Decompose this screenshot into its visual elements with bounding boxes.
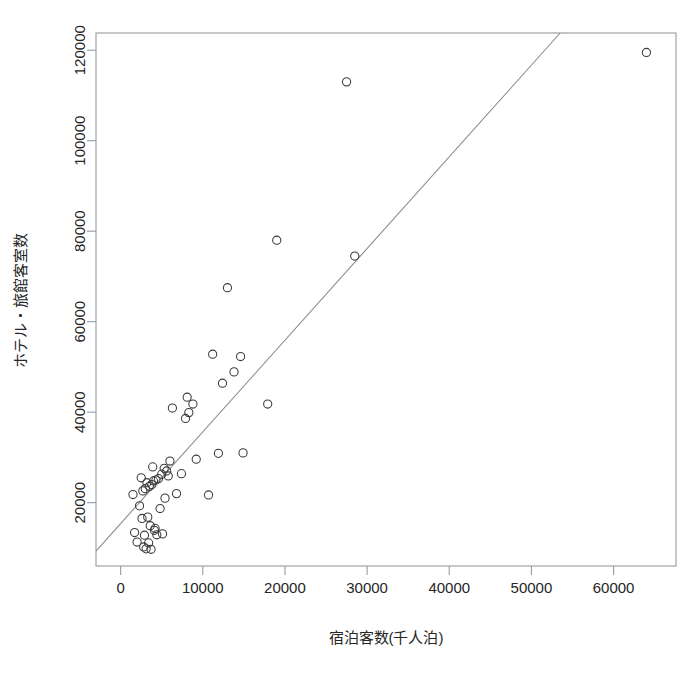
x-tick-label: 30000 bbox=[346, 579, 388, 596]
x-tick-label: 10000 bbox=[182, 579, 224, 596]
y-tick-label: 80000 bbox=[72, 210, 89, 252]
x-tick-label: 40000 bbox=[428, 579, 470, 596]
y-tick-label: 60000 bbox=[72, 301, 89, 343]
x-tick-label: 0 bbox=[116, 579, 124, 596]
y-tick-label: 40000 bbox=[72, 391, 89, 433]
x-tick-label: 20000 bbox=[264, 579, 306, 596]
scatter-plot-svg: 20000400006000080000100000120000 0100002… bbox=[0, 0, 700, 674]
y-axis-title: ホテル・旅館客室数 bbox=[12, 233, 29, 368]
y-tick-label: 120000 bbox=[72, 25, 89, 75]
x-tick-label: 50000 bbox=[511, 579, 553, 596]
x-tick-label: 60000 bbox=[593, 579, 635, 596]
y-tick-label: 20000 bbox=[72, 482, 89, 524]
x-axis-title: 宿泊客数(千人泊) bbox=[329, 629, 444, 646]
y-tick-label: 100000 bbox=[72, 116, 89, 166]
scatter-plot-figure: 20000400006000080000100000120000 0100002… bbox=[0, 0, 700, 674]
figure-background bbox=[0, 0, 700, 674]
